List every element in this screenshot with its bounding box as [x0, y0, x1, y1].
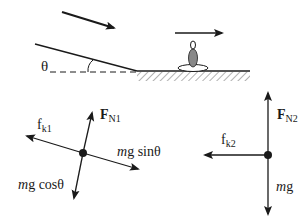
normal-n2-label: FN2	[277, 108, 298, 124]
mg-cos-theta-label: mg cosθ	[18, 178, 64, 192]
mg-label: mg	[276, 180, 293, 194]
normal-n1-label: FN1	[100, 108, 121, 124]
flat-ground	[137, 71, 250, 81]
fbd-flat	[205, 93, 272, 214]
friction-k2-label: fk2	[221, 133, 236, 149]
angle-theta-label: θ	[41, 59, 48, 74]
incline-velocity-arrow	[62, 12, 114, 28]
skier	[178, 41, 208, 72]
mg-sin-theta-label: mg sinθ	[117, 145, 161, 159]
incline-surface	[35, 44, 137, 71]
angle-arc	[88, 60, 93, 72]
physics-diagram: θ fk1 FN1 mg sinθ mg cosθ fk2 FN2 mg	[0, 0, 308, 220]
friction-k1-label: fk1	[37, 118, 52, 134]
